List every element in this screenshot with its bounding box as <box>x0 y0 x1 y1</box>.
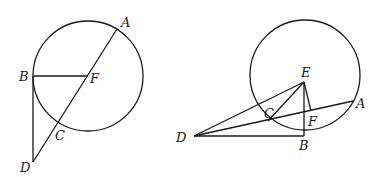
point-label-f: F <box>89 71 100 86</box>
point-label-d: D <box>175 130 187 145</box>
geometry-canvas: ABFCD EABCFD <box>0 0 384 177</box>
point-label-a: A <box>120 15 130 30</box>
figure-left: ABFCD <box>18 15 143 175</box>
point-label-d: D <box>19 160 31 175</box>
segment-de <box>194 82 304 136</box>
segment-ef <box>304 82 311 111</box>
figure-right: EABCFD <box>175 20 365 153</box>
point-label-c: C <box>55 128 65 143</box>
point-label-a: A <box>355 96 365 111</box>
point-label-e: E <box>300 65 311 80</box>
segment-ad <box>33 29 117 162</box>
point-label-f: F <box>307 114 318 129</box>
point-label-c: C <box>264 106 274 121</box>
point-label-b: B <box>18 69 29 84</box>
point-label-b: B <box>298 138 309 153</box>
